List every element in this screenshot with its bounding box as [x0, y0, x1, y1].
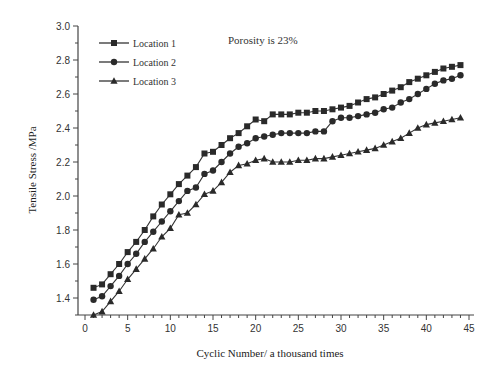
square-marker: [338, 105, 344, 111]
circle-marker: [184, 188, 190, 194]
circle-marker: [111, 59, 117, 65]
square-marker: [270, 111, 276, 117]
legend-label: Location 2: [133, 57, 176, 68]
circle-marker: [218, 159, 224, 165]
circle-marker: [432, 81, 438, 87]
y-tick-label: 2.4: [56, 123, 70, 134]
circle-marker: [423, 86, 429, 92]
circle-marker: [449, 76, 455, 82]
x-tick-label: 20: [250, 323, 262, 334]
circle-marker: [278, 130, 284, 136]
circle-marker: [415, 91, 421, 97]
square-marker: [184, 173, 190, 179]
circle-marker: [193, 184, 199, 190]
circle-marker: [90, 297, 96, 303]
circle-marker: [235, 144, 241, 150]
circle-marker: [99, 293, 105, 299]
square-marker: [329, 106, 335, 112]
circle-marker: [107, 283, 113, 289]
square-marker: [159, 202, 165, 208]
x-tick-label: 15: [207, 323, 219, 334]
circle-marker: [116, 273, 122, 279]
square-marker: [287, 111, 293, 117]
square-marker: [321, 108, 327, 114]
circle-marker: [227, 150, 233, 156]
circle-marker: [398, 99, 404, 105]
square-marker: [432, 69, 438, 75]
circle-marker: [346, 115, 352, 121]
square-marker: [116, 261, 122, 267]
circle-marker: [440, 77, 446, 83]
square-marker: [99, 281, 105, 287]
x-axis-title: Cyclic Number/ a thousand times: [196, 347, 343, 359]
x-tick-label: 10: [165, 323, 177, 334]
circle-marker: [380, 106, 386, 112]
square-marker: [244, 123, 250, 129]
square-marker: [381, 91, 387, 97]
square-marker: [167, 191, 173, 197]
square-marker: [111, 40, 117, 46]
square-marker: [227, 135, 233, 141]
circle-marker: [329, 118, 335, 124]
circle-marker: [287, 130, 293, 136]
square-marker: [398, 84, 404, 90]
circle-marker: [304, 130, 310, 136]
y-tick-label: 2.0: [56, 191, 70, 202]
square-marker: [193, 164, 199, 170]
circle-marker: [201, 171, 207, 177]
square-marker: [261, 118, 267, 124]
circle-marker: [261, 133, 267, 139]
square-marker: [406, 79, 412, 85]
square-marker: [457, 62, 463, 68]
circle-marker: [363, 111, 369, 117]
circle-marker: [457, 72, 463, 78]
square-marker: [312, 108, 318, 114]
circle-marker: [252, 135, 258, 141]
circle-marker: [372, 110, 378, 116]
square-marker: [355, 100, 361, 106]
circle-marker: [124, 261, 130, 267]
y-axis-title: Tensile Stress /MPa: [26, 126, 38, 213]
square-marker: [415, 76, 421, 82]
circle-marker: [406, 96, 412, 102]
circle-marker: [244, 140, 250, 146]
square-marker: [210, 149, 216, 155]
square-marker: [176, 181, 182, 187]
y-tick-label: 1.8: [56, 225, 70, 236]
y-tick-label: 2.6: [56, 89, 70, 100]
circle-marker: [176, 198, 182, 204]
circle-marker: [389, 104, 395, 110]
y-tick-label: 2.8: [56, 55, 70, 66]
x-tick-label: 5: [125, 323, 131, 334]
square-marker: [142, 227, 148, 233]
y-tick-label: 1.6: [56, 259, 70, 270]
x-tick-label: 40: [421, 323, 433, 334]
square-marker: [440, 66, 446, 72]
circle-marker: [312, 128, 318, 134]
legend-label: Location 3: [133, 76, 176, 87]
square-marker: [364, 96, 370, 102]
square-marker: [253, 117, 259, 123]
circle-marker: [355, 113, 361, 119]
square-marker: [108, 271, 114, 277]
circle-marker: [210, 167, 216, 173]
square-marker: [295, 110, 301, 116]
circle-marker: [142, 239, 148, 245]
y-tick-label: 1.4: [56, 293, 70, 304]
square-marker: [219, 142, 225, 148]
square-marker: [201, 151, 207, 157]
x-tick-label: 30: [335, 323, 347, 334]
line-chart: 1.41.61.82.02.22.42.62.83.0 051015202530…: [0, 0, 500, 388]
porosity-annotation: Porosity is 23%: [228, 34, 298, 46]
circle-marker: [338, 115, 344, 121]
legend-label: Location 1: [133, 38, 176, 49]
circle-marker: [321, 128, 327, 134]
square-marker: [372, 94, 378, 100]
y-tick-label: 2.2: [56, 157, 70, 168]
y-tick-label: 3.0: [56, 21, 70, 32]
square-marker: [347, 103, 353, 109]
circle-marker: [295, 130, 301, 136]
square-marker: [389, 88, 395, 94]
square-marker: [133, 239, 139, 245]
circle-marker: [167, 208, 173, 214]
